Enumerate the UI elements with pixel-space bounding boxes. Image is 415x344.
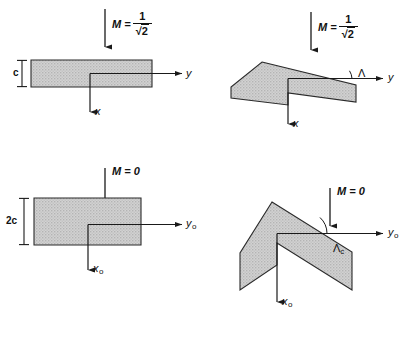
dimension-label-2c: 2c [6, 216, 17, 226]
mach-numerator-top-left: 1 [133, 11, 152, 23]
technical-figure: M =1√2 c y x M =1√2 Λ y x M = 0 2c yo xo… [0, 0, 415, 344]
mach-fraction-top-right: 1√2 [339, 14, 358, 40]
axis-label-y-top-left: y [186, 68, 192, 79]
axis-label-x-top-right: x [293, 118, 299, 129]
axis-label-y0-bottom-left: yo [186, 218, 196, 231]
mach-denominator-top-left: √2 [133, 23, 152, 37]
sweep-angle-arc-bottom [320, 218, 327, 234]
mach-fraction-top-left: 1√2 [133, 11, 152, 37]
sweep-angle-arc-top [350, 71, 353, 79]
radicand-top-right: 2 [347, 27, 355, 40]
axis-label-x0-bottom-left: xo [93, 263, 103, 276]
axis-label-x0-bottom-right: xo [282, 296, 292, 309]
axis-label-y0-subscript-right: o [394, 231, 398, 240]
axis-label-x0-subscript-right: o [288, 300, 292, 309]
panel-bottom-left [19, 168, 182, 270]
mach-symbol-top-right: M = [318, 21, 337, 33]
mach-label-top-right: M =1√2 [318, 15, 358, 41]
axis-label-y0-bottom-right: yo [388, 227, 398, 240]
panel-top-left [17, 9, 182, 112]
figure-canvas [0, 0, 415, 344]
dimension-label-c: c [13, 68, 19, 78]
dimension-2c [19, 198, 29, 245]
mach-label-bottom-right: M = 0 [337, 186, 365, 197]
mach-numerator-top-right: 1 [339, 14, 358, 26]
mach-label-top-left: M =1√2 [112, 12, 152, 38]
mach-symbol-top-left: M = [112, 18, 131, 30]
mach-label-bottom-left: M = 0 [112, 166, 140, 177]
axis-label-y0-subscript: o [192, 222, 196, 231]
axis-label-x0-subscript: o [99, 267, 103, 276]
axis-label-x-top-left: x [95, 106, 101, 117]
sweep-angle-subscript-bottom: c [340, 247, 344, 256]
sweep-angle-label-top: Λ [358, 68, 365, 79]
panel-bottom-right [240, 188, 383, 302]
axis-label-y-top-right: y [388, 72, 394, 83]
mach-denominator-top-right: √2 [339, 26, 358, 40]
sweep-angle-label-bottom: Λc [333, 243, 344, 256]
radicand-top-left: 2 [141, 24, 149, 37]
wing-planform-swept-top [231, 62, 356, 105]
